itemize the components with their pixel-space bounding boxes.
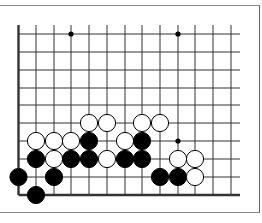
white-stone	[27, 132, 44, 149]
white-stone	[116, 132, 133, 149]
white-stone	[151, 114, 168, 131]
black-stone	[151, 168, 168, 185]
black-stone	[169, 168, 186, 185]
white-stone	[186, 150, 203, 167]
white-stone	[133, 114, 150, 131]
star-point-icon	[175, 31, 180, 36]
white-stone	[45, 150, 62, 167]
white-stone	[62, 132, 79, 149]
black-stone	[10, 168, 27, 185]
black-stone	[62, 150, 79, 167]
black-stone	[80, 132, 97, 149]
black-stone	[133, 132, 150, 149]
white-stone	[169, 150, 186, 167]
star-point-icon	[68, 31, 73, 36]
star-point-icon	[175, 138, 180, 143]
black-stone	[27, 186, 44, 203]
white-stone	[45, 132, 62, 149]
black-stone	[133, 150, 150, 167]
white-stone	[98, 114, 115, 131]
white-stone	[98, 150, 115, 167]
black-stone	[27, 150, 44, 167]
black-stone	[116, 150, 133, 167]
white-stone	[186, 168, 203, 185]
black-stone	[80, 150, 97, 167]
go-board	[0, 0, 262, 223]
white-stone	[80, 114, 97, 131]
black-stone	[45, 168, 62, 185]
